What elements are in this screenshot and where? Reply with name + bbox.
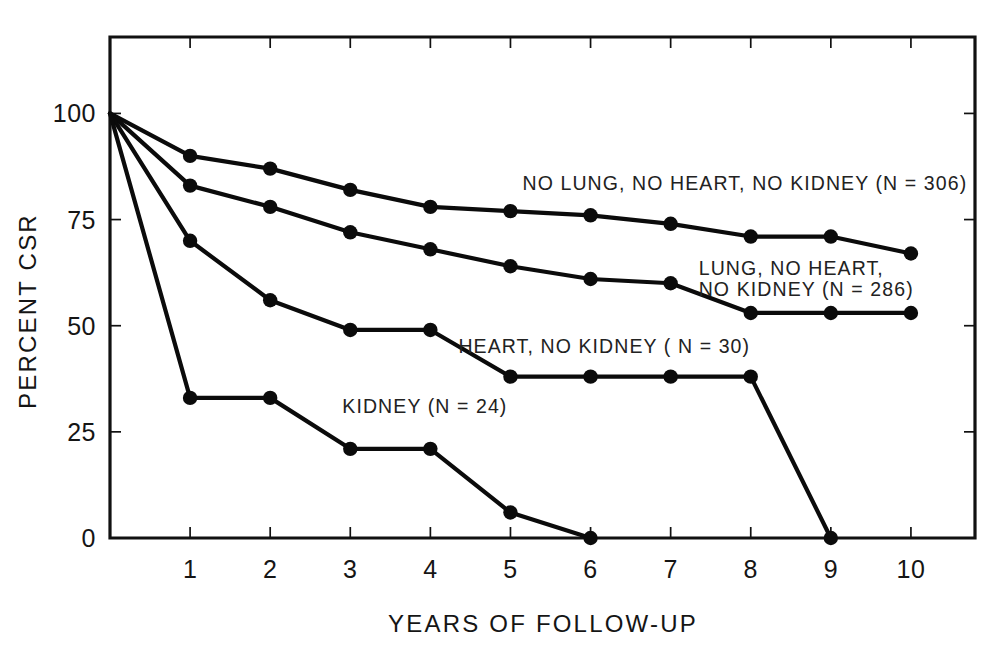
data-point xyxy=(503,505,517,519)
series-label-3: HEART, NO KIDNEY ( N = 30) xyxy=(458,335,750,357)
y-tick-label: 100 xyxy=(53,99,96,127)
data-point xyxy=(503,204,517,218)
x-tick-label: 7 xyxy=(663,555,677,583)
data-point xyxy=(343,183,357,197)
data-point xyxy=(663,217,677,231)
data-point xyxy=(183,178,197,192)
data-point xyxy=(583,531,597,545)
x-tick-label: 3 xyxy=(343,555,357,583)
data-point xyxy=(503,259,517,273)
x-tick-label: 10 xyxy=(897,555,926,583)
data-point xyxy=(263,293,277,307)
y-tick-label: 50 xyxy=(67,312,96,340)
data-point xyxy=(824,229,838,243)
y-tick-label: 0 xyxy=(82,524,96,552)
data-point xyxy=(423,442,437,456)
x-tick-label: 2 xyxy=(263,555,277,583)
data-point xyxy=(263,200,277,214)
y-tick-label: 25 xyxy=(67,418,96,446)
data-point xyxy=(583,272,597,286)
x-tick-label: 5 xyxy=(503,555,517,583)
data-point xyxy=(183,234,197,248)
data-point xyxy=(423,242,437,256)
figure-container: 025507510012345678910 NO LUNG, NO HEART,… xyxy=(0,0,1004,658)
data-point xyxy=(583,369,597,383)
data-point xyxy=(744,369,758,383)
line-chart: 025507510012345678910 NO LUNG, NO HEART,… xyxy=(0,0,1004,658)
data-point xyxy=(183,391,197,405)
data-point xyxy=(824,531,838,545)
x-tick-label: 8 xyxy=(744,555,758,583)
series-label-0: NO LUNG, NO HEART, NO KIDNEY (N = 306) xyxy=(523,172,968,194)
data-point xyxy=(583,208,597,222)
data-point xyxy=(343,323,357,337)
y-axis-title: PERCENT CSR xyxy=(14,213,41,409)
data-point xyxy=(904,306,918,320)
data-point xyxy=(744,306,758,320)
data-point xyxy=(343,442,357,456)
data-point xyxy=(263,161,277,175)
data-point xyxy=(263,391,277,405)
data-point xyxy=(824,306,838,320)
data-point xyxy=(663,369,677,383)
series-label-4: KIDNEY (N = 24) xyxy=(342,395,507,417)
x-axis-title: YEARS OF FOLLOW-UP xyxy=(388,610,698,637)
x-tick-label: 4 xyxy=(423,555,437,583)
data-point xyxy=(183,149,197,163)
data-point xyxy=(503,369,517,383)
data-point xyxy=(663,276,677,290)
series-label-2: NO KIDNEY (N = 286) xyxy=(699,278,914,300)
series-label-1: LUNG, NO HEART, xyxy=(699,257,884,279)
data-point xyxy=(423,323,437,337)
data-point xyxy=(904,246,918,260)
data-point xyxy=(744,229,758,243)
x-tick-label: 6 xyxy=(583,555,597,583)
data-point xyxy=(343,225,357,239)
y-tick-label: 75 xyxy=(67,206,96,234)
data-point xyxy=(423,200,437,214)
x-tick-label: 9 xyxy=(824,555,838,583)
x-tick-label: 1 xyxy=(183,555,197,583)
